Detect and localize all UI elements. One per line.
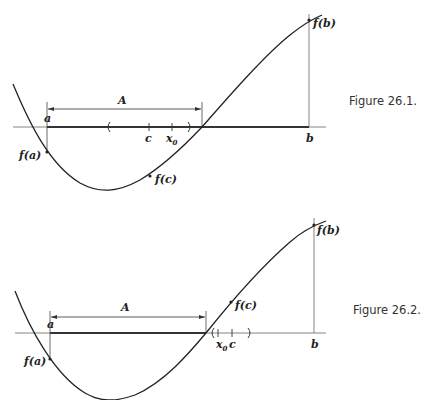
arrowhead-right-icon bbox=[195, 107, 201, 111]
label-x0: x0 bbox=[165, 132, 178, 147]
point-fc bbox=[229, 300, 232, 303]
label-b: b bbox=[306, 132, 314, 145]
figure-caption: Figure 26.2. bbox=[353, 303, 421, 317]
label-fc: f(c) bbox=[154, 173, 177, 186]
figure-26-1: a b c x0 A f(a) f(c) f(b) Figure 26.1. bbox=[13, 14, 417, 190]
label-fa: f(a) bbox=[23, 355, 46, 368]
label-fb: f(b) bbox=[312, 17, 336, 30]
label-x0: x0 bbox=[215, 338, 228, 353]
function-curve bbox=[13, 15, 322, 190]
point-fa bbox=[48, 357, 51, 360]
label-a: a bbox=[44, 112, 51, 125]
label-b: b bbox=[311, 338, 319, 351]
figure-caption: Figure 26.1. bbox=[349, 94, 417, 108]
point-fb bbox=[312, 223, 315, 226]
label-fb: f(b) bbox=[316, 224, 340, 237]
label-c: c bbox=[229, 338, 236, 351]
label-A: A bbox=[120, 301, 130, 314]
function-curve bbox=[15, 221, 326, 400]
label-a: a bbox=[47, 318, 54, 331]
point-fb bbox=[307, 18, 310, 21]
label-c: c bbox=[145, 132, 152, 145]
diagram-canvas: a b c x0 A f(a) f(c) f(b) Figure 26.1. a… bbox=[0, 0, 429, 400]
point-fc bbox=[148, 174, 151, 177]
label-fa: f(a) bbox=[18, 149, 41, 162]
arrowhead-left-icon bbox=[48, 107, 54, 111]
arrowhead-right-icon bbox=[199, 315, 205, 319]
label-A: A bbox=[117, 94, 127, 107]
figure-26-2: a b x0 c A f(a) f(c) f(b) Figure 26.2. bbox=[15, 218, 421, 400]
point-fa bbox=[45, 150, 48, 153]
label-fc: f(c) bbox=[234, 299, 257, 312]
